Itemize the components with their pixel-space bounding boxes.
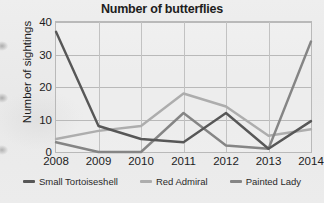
legend-line-icon [230,180,242,183]
series-lines [56,22,311,152]
legend-line-icon [23,180,35,183]
series-line [56,42,311,153]
y-axis-tick-label: 30 [39,49,52,61]
y-axis-tick-label: 20 [39,81,52,93]
x-axis-tick-label: 2008 [43,155,69,167]
y-axis-tick-label: 40 [39,16,52,28]
legend-label: Painted Lady [246,176,301,187]
legend-line-icon [140,180,152,183]
x-axis-tick-label: 2009 [86,155,112,167]
plot-area: Number of sightings 010203040 2008200920… [55,21,312,153]
legend-label: Small Tortoiseshell [39,176,118,187]
x-axis-tick-label: 2013 [256,155,282,167]
butterfly-line-chart: Number of butterflies Number of sighting… [0,0,324,203]
x-axis-tick-label: 2014 [298,155,324,167]
y-axis-tick-label: 10 [39,114,52,126]
x-axis-tick-label: 2010 [128,155,154,167]
legend-item[interactable]: Painted Lady [230,176,301,187]
legend-item[interactable]: Red Admiral [140,176,208,187]
chart-legend: Small TortoiseshellRed AdmiralPainted La… [0,176,324,187]
legend-label: Red Admiral [156,176,208,187]
chart-title: Number of butterflies [0,2,324,16]
legend-item[interactable]: Small Tortoiseshell [23,176,118,187]
x-axis-tick-label: 2012 [213,155,239,167]
x-axis-tick-label: 2011 [171,155,196,167]
y-axis-label: Number of sightings [21,2,33,142]
